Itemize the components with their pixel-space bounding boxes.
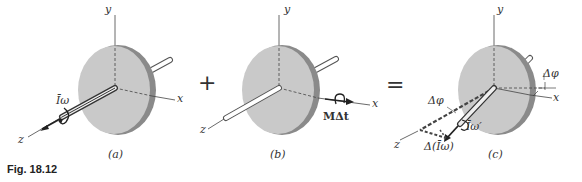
panel-a: y x z Īω (a) bbox=[17, 3, 184, 161]
vector-label-c: Īω′ bbox=[465, 120, 482, 133]
axis-label-z-a: z bbox=[17, 133, 24, 146]
panel-label-b: (b) bbox=[270, 148, 286, 161]
axis-label-x-a: x bbox=[177, 92, 184, 105]
axis-label-z-b: z bbox=[199, 123, 206, 136]
panel-label-a: (a) bbox=[108, 148, 123, 161]
panel-c: y x z Δφ Δφ Īω′ Δ(Īω) (c) bbox=[393, 3, 560, 161]
panel-b: y x z MΔt (b) bbox=[199, 3, 379, 161]
angle-label-left-c: Δφ bbox=[427, 94, 444, 107]
axis-label-x-b: x bbox=[372, 97, 379, 110]
delta-vector-label-c: Δ(Īω) bbox=[423, 140, 454, 153]
vector-label-b: MΔt bbox=[323, 110, 350, 123]
axis-label-z-c: z bbox=[393, 138, 400, 151]
figure-canvas: y x z Īω (a) + y x z MΔt (b) = bbox=[0, 0, 582, 182]
vector-label-a: Īω bbox=[55, 94, 69, 107]
plus-operator: + bbox=[198, 70, 216, 95]
panel-label-c: (c) bbox=[488, 148, 503, 161]
equals-operator: = bbox=[386, 72, 404, 97]
angle-label-right-c: Δφ bbox=[542, 67, 559, 80]
axis-label-y-a: y bbox=[104, 3, 112, 16]
axis-label-y-b: y bbox=[283, 3, 291, 16]
axis-label-x-c: x bbox=[553, 91, 560, 104]
axis-label-y-c: y bbox=[496, 3, 504, 16]
figure-caption: Fig. 18.12 bbox=[7, 163, 57, 175]
